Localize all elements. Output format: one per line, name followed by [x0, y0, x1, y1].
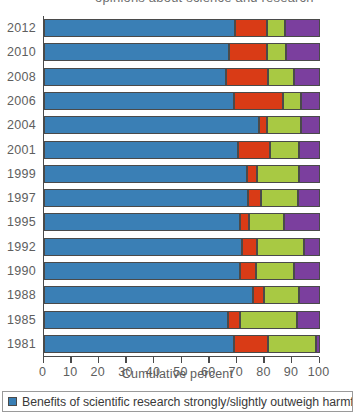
bar-segment [234, 335, 269, 353]
y-axis-tick-label: 1981 [0, 335, 36, 353]
x-axis-tick [181, 357, 182, 363]
bar-segment [285, 19, 319, 37]
bar-segment [268, 335, 316, 353]
bar-segment [294, 68, 319, 86]
x-axis-tick [236, 357, 237, 363]
bar-segment [240, 311, 297, 329]
bar-row [44, 92, 320, 110]
y-axis-tick-label: 1985 [0, 311, 36, 329]
bar-row [44, 335, 320, 353]
legend-label-benefits: Benefits of scientific research strongly… [22, 395, 353, 409]
x-axis-tick [153, 357, 154, 363]
bar-segment [264, 286, 300, 304]
bar-row [44, 68, 320, 86]
x-axis-title: Cumulative percent [0, 367, 355, 381]
bar-row [44, 311, 320, 329]
bar-segment [267, 19, 285, 37]
chart-title-text: opinions about science and research [95, 0, 314, 5]
bar-row [44, 116, 320, 134]
bar-row [44, 165, 320, 183]
y-axis-tick-label: 2004 [0, 116, 36, 134]
bar-segment [44, 68, 226, 86]
y-axis-tick-label: 1990 [0, 262, 36, 280]
bar-segment [297, 311, 320, 329]
y-axis-tick-label: 1999 [0, 165, 36, 183]
plot-area: 0102030405060708090100 [43, 16, 319, 356]
bar-segment [228, 311, 241, 329]
bar-segment [301, 92, 319, 110]
bar-segment [44, 165, 247, 183]
bar-segment [240, 213, 250, 231]
bar-segment [253, 286, 264, 304]
bar-segment [316, 335, 320, 353]
x-axis-tick [70, 357, 71, 363]
bar-segment [257, 165, 300, 183]
bar-row [44, 238, 320, 256]
x-axis-tick [319, 357, 320, 363]
bar-row [44, 262, 320, 280]
bar-segment [283, 92, 301, 110]
bar-segment [240, 262, 257, 280]
bar-segment [267, 116, 301, 134]
bar-segment [44, 19, 236, 37]
bar-segment [299, 286, 319, 304]
bar-row [44, 189, 320, 207]
bar-segment [294, 262, 319, 280]
y-axis-tick-label: 1992 [0, 238, 36, 256]
bar-row [44, 43, 320, 61]
bar-segment [44, 43, 229, 61]
bar-segment [44, 238, 242, 256]
bar-segment [284, 213, 320, 231]
y-axis-tick-label: 1988 [0, 286, 36, 304]
bar-segment [242, 238, 257, 256]
y-axis-tick-label: 2001 [0, 141, 36, 159]
bar-segment [257, 238, 304, 256]
bar-segment [299, 165, 319, 183]
y-axis-tick-label: 1997 [0, 189, 36, 207]
bar-segment [301, 116, 319, 134]
x-axis-tick [263, 357, 264, 363]
x-axis-tick [43, 357, 44, 363]
x-axis-tick [125, 357, 126, 363]
bar-segment [44, 116, 260, 134]
chart-title-cropped: opinions about science and research [0, 0, 355, 7]
bar-segment [268, 68, 294, 86]
bar-segment [229, 43, 268, 61]
x-axis-tick [98, 357, 99, 363]
bar-segment [261, 189, 297, 207]
x-axis-tick [291, 357, 292, 363]
bar-segment [44, 189, 249, 207]
bar-segment [267, 43, 286, 61]
bar-segment [238, 141, 271, 159]
bar-segment [298, 189, 320, 207]
y-axis-labels: 2012201020082006200420011999199719951992… [0, 16, 42, 356]
y-axis-tick-label: 2010 [0, 43, 36, 61]
chart-legend: Benefits of scientific research strongly… [2, 391, 353, 412]
stacked-bar-chart: opinions about science and research 2012… [0, 0, 355, 414]
y-axis-tick-label: 1995 [0, 213, 36, 231]
bar-segment [44, 262, 240, 280]
bar-segment [248, 189, 261, 207]
bar-segment [299, 141, 319, 159]
x-axis-tick [208, 357, 209, 363]
bar-segment [44, 92, 234, 110]
bar-segment [44, 213, 240, 231]
bar-segment [44, 335, 234, 353]
bar-segment [286, 43, 320, 61]
legend-swatch-benefits [8, 397, 17, 406]
bar-segment [226, 68, 269, 86]
bar-segment [270, 141, 299, 159]
y-axis-tick-label: 2012 [0, 19, 36, 37]
bar-segment [235, 19, 266, 37]
bar-segment [247, 165, 257, 183]
bar-segment [44, 141, 238, 159]
bar-row [44, 286, 320, 304]
bar-row [44, 19, 320, 37]
bar-segment [44, 286, 253, 304]
bar-row [44, 141, 320, 159]
bar-segment [249, 213, 284, 231]
bar-segment [44, 311, 228, 329]
bar-segment [256, 262, 294, 280]
y-axis-tick-label: 2008 [0, 68, 36, 86]
bar-segment [234, 92, 284, 110]
